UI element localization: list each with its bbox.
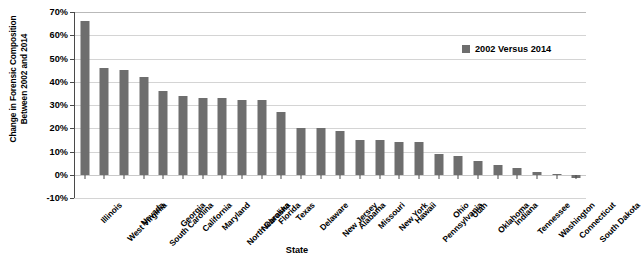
bar[interactable] — [473, 161, 482, 175]
x-axis-tick-mark — [477, 175, 478, 179]
x-axis-tick-mark — [359, 175, 360, 179]
x-axis-category-label: Illinois — [98, 200, 123, 225]
bar-slot[interactable] — [291, 12, 311, 198]
bar-slot[interactable] — [566, 12, 586, 198]
x-axis-tick-mark — [84, 175, 85, 179]
y-axis-tick-mark — [70, 198, 74, 199]
y-axis-tick-label: 10% — [28, 147, 68, 157]
bar[interactable] — [198, 98, 207, 175]
x-axis-tick-mark — [143, 175, 144, 179]
bar-slot[interactable] — [468, 12, 488, 198]
bar[interactable] — [316, 128, 325, 175]
bar-slot[interactable] — [547, 12, 567, 198]
x-axis-title: State — [0, 245, 594, 255]
y-axis-tick-label: 40% — [28, 77, 68, 87]
bar[interactable] — [159, 91, 168, 175]
bar-slot[interactable] — [488, 12, 508, 198]
bar-slot[interactable] — [429, 12, 449, 198]
bar[interactable] — [139, 77, 148, 175]
bar[interactable] — [414, 142, 423, 175]
x-axis-tick-mark — [497, 175, 498, 179]
bar-slot[interactable] — [193, 12, 213, 198]
legend-label: 2002 Versus 2014 — [475, 44, 551, 54]
bar-slot[interactable] — [272, 12, 292, 198]
y-axis-tick-label: 60% — [28, 30, 68, 40]
x-axis-tick-mark — [438, 175, 439, 179]
x-axis-category-label: Hawaii — [413, 200, 438, 225]
x-axis-category-label: Nevada — [139, 200, 167, 228]
y-axis-tick-label: 30% — [28, 100, 68, 110]
x-axis-tick-mark — [222, 175, 223, 179]
bar[interactable] — [100, 68, 109, 175]
bar-slot[interactable] — [311, 12, 331, 198]
bar[interactable] — [257, 100, 266, 174]
bar-slot[interactable] — [252, 12, 272, 198]
x-axis-tick-mark — [418, 175, 419, 179]
bar[interactable] — [434, 154, 443, 175]
bar-slot[interactable] — [232, 12, 252, 198]
x-axis-tick-mark — [536, 175, 537, 179]
bar[interactable] — [493, 165, 502, 174]
legend: 2002 Versus 2014 — [462, 44, 551, 54]
x-axis-tick-mark — [340, 175, 341, 179]
x-axis-tick-mark — [202, 175, 203, 179]
bar-slot[interactable] — [331, 12, 351, 198]
x-axis-tick-mark — [163, 175, 164, 179]
bar-slot[interactable] — [527, 12, 547, 198]
x-axis-tick-mark — [301, 175, 302, 179]
bar[interactable] — [120, 70, 129, 175]
plot-area: 70%60%50%40%30%20%10%0%-10% — [74, 12, 586, 198]
x-axis-tick-mark — [458, 175, 459, 179]
bar-slot[interactable] — [114, 12, 134, 198]
x-axis-tick-mark — [281, 175, 282, 179]
bar-slot[interactable] — [350, 12, 370, 198]
bar-slot[interactable] — [389, 12, 409, 198]
bar-series — [75, 12, 586, 198]
bar[interactable] — [238, 100, 247, 174]
x-axis-tick-mark — [576, 175, 577, 179]
bar[interactable] — [277, 112, 286, 175]
x-axis-tick-mark — [183, 175, 184, 179]
bar[interactable] — [80, 21, 89, 174]
bar[interactable] — [375, 140, 384, 175]
bar-slot[interactable] — [154, 12, 174, 198]
bar-slot[interactable] — [507, 12, 527, 198]
x-axis-tick-mark — [320, 175, 321, 179]
x-axis-tick-mark — [379, 175, 380, 179]
bar-slot[interactable] — [95, 12, 115, 198]
legend-swatch — [462, 45, 470, 53]
bar-slot[interactable] — [409, 12, 429, 198]
bar-slot[interactable] — [448, 12, 468, 198]
bar-slot[interactable] — [134, 12, 154, 198]
bar[interactable] — [454, 156, 463, 175]
gridline — [74, 198, 586, 199]
y-axis-tick-label: 0% — [28, 170, 68, 180]
y-axis-tick-label: -10% — [28, 193, 68, 203]
bar[interactable] — [297, 128, 306, 175]
y-axis-tick-label: 50% — [28, 54, 68, 64]
bar[interactable] — [218, 98, 227, 175]
y-axis-title-line-1: Change in Forensic Composition — [8, 16, 19, 143]
x-axis-tick-mark — [124, 175, 125, 179]
bar[interactable] — [179, 96, 188, 175]
bar-slot[interactable] — [213, 12, 233, 198]
bar[interactable] — [513, 168, 522, 175]
bar-slot[interactable] — [173, 12, 193, 198]
y-axis-tick-label: 20% — [28, 123, 68, 133]
x-axis-tick-mark — [104, 175, 105, 179]
bar-slot[interactable] — [370, 12, 390, 198]
x-axis-tick-mark — [517, 175, 518, 179]
y-axis-tick-label: 70% — [28, 7, 68, 17]
x-axis-tick-mark — [399, 175, 400, 179]
bar-slot[interactable] — [75, 12, 95, 198]
x-axis-tick-mark — [242, 175, 243, 179]
bar[interactable] — [336, 131, 345, 175]
x-axis-tick-mark — [556, 175, 557, 179]
bar[interactable] — [355, 140, 364, 175]
bar[interactable] — [395, 142, 404, 175]
x-axis-tick-mark — [261, 175, 262, 179]
